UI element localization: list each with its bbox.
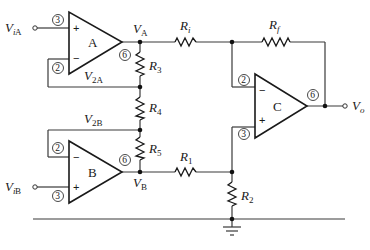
label-vo: V o [352, 98, 365, 115]
svg-text:1: 1 [188, 156, 193, 166]
resistor-rf: R f [262, 17, 290, 46]
svg-text:2A: 2A [92, 75, 104, 85]
svg-text:f: f [277, 24, 281, 34]
label-va: V A [133, 21, 148, 38]
opamp-b-pin2: 2 [55, 143, 60, 153]
label-v2a: V 2A [84, 68, 104, 85]
opamp-a-pin6: 6 [122, 50, 127, 60]
opamp-b-pin6: 6 [122, 155, 127, 165]
opamp-b-label: B [88, 165, 97, 180]
opamp-c-pin3: 3 [241, 129, 246, 139]
circuit-svg: + − A 3 2 6 − + B 2 3 6 − + C 2 3 6 R [0, 0, 370, 250]
resistor-r4: R 4 [136, 97, 162, 120]
opamp-c: − + C 2 3 6 [239, 74, 319, 140]
opamp-c-pin2: 2 [241, 75, 246, 85]
opamp-a: + − A 3 2 6 [53, 12, 131, 74]
svg-text:R: R [179, 18, 188, 33]
svg-text:R: R [240, 188, 249, 203]
opamp-a-minus-sign: − [73, 52, 79, 64]
vib-terminal [33, 185, 37, 189]
svg-text:R: R [148, 58, 157, 73]
svg-text:A: A [15, 27, 22, 37]
resistor-r5: R 5 [136, 137, 162, 160]
svg-text:o: o [360, 105, 365, 115]
svg-text:3: 3 [157, 65, 162, 75]
resistor-ri: R i [175, 18, 196, 46]
resistor-r3: R 3 [136, 52, 162, 76]
svg-text:2: 2 [249, 195, 254, 205]
svg-text:2B: 2B [92, 118, 103, 128]
opamp-a-label: A [88, 35, 98, 50]
opamp-c-label: C [273, 99, 282, 114]
ground-icon [223, 227, 241, 235]
resistor-r1: R 1 [175, 149, 196, 176]
circuit-diagram: + − A 3 2 6 − + B 2 3 6 − + C 2 3 6 R [0, 0, 370, 250]
svg-text:B: B [141, 182, 147, 192]
label-vb: V B [133, 175, 147, 192]
label-vib: V i B [5, 179, 21, 196]
svg-text:B: B [15, 186, 21, 196]
svg-text:R: R [148, 141, 157, 156]
svg-text:4: 4 [157, 107, 162, 117]
vo-terminal [343, 104, 347, 108]
opamp-c-pin6: 6 [310, 90, 315, 100]
opamp-a-pin2: 2 [55, 63, 60, 73]
opamp-c-plus-sign: + [259, 114, 265, 126]
label-via: V i A [5, 20, 22, 37]
svg-text:A: A [141, 28, 148, 38]
svg-text:R: R [148, 100, 157, 115]
via-terminal [33, 26, 37, 30]
opamp-b-plus-sign: + [73, 181, 79, 193]
opamp-b-pin3: 3 [55, 191, 60, 201]
svg-text:i: i [188, 25, 191, 35]
svg-text:R: R [268, 17, 277, 32]
opamp-b: − + B 2 3 6 [53, 141, 131, 203]
svg-text:R: R [179, 149, 188, 164]
opamp-a-pin3: 3 [55, 15, 60, 25]
opamp-c-minus-sign: − [259, 84, 265, 96]
svg-text:5: 5 [157, 148, 162, 158]
opamp-b-minus-sign: − [73, 151, 79, 163]
resistor-r2: R 2 [228, 182, 254, 206]
label-v2b: V 2B [84, 111, 103, 128]
opamp-a-plus-sign: + [73, 22, 79, 34]
